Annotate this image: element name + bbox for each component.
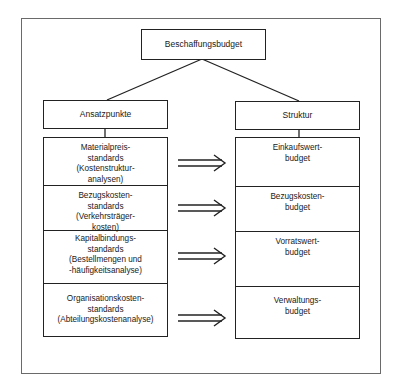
right-item: Verwaltungs- budget	[236, 287, 359, 338]
left-item: Kapitalbindungs- standards (Bestellmenge…	[44, 231, 167, 284]
right-item: Einkaufswert- budget	[236, 138, 359, 187]
left-item: Bezugskosten- standards (Verkehrsträger-…	[44, 186, 167, 231]
double-arrow-icon	[178, 310, 225, 326]
left-column: Materialpreis- standards (Kostenstruktur…	[43, 137, 168, 337]
double-arrow-icon	[178, 200, 225, 216]
right-header-node: Struktur	[235, 101, 360, 130]
right-item: Bezugskosten- budget	[236, 187, 359, 232]
right-item: Vorratswert- budget	[236, 232, 359, 287]
right-column: Einkaufswert- budget Bezugskosten- budge…	[235, 137, 360, 339]
left-header-node: Ansatzpunkte	[43, 100, 168, 129]
left-item: Organisationskosten- standards (Abteilun…	[44, 284, 167, 336]
root-node: Beschaffungsbudget	[141, 29, 266, 60]
double-arrow-icon	[178, 248, 225, 264]
left-item: Materialpreis- standards (Kostenstruktur…	[44, 138, 167, 186]
double-arrow-icon	[178, 155, 225, 171]
